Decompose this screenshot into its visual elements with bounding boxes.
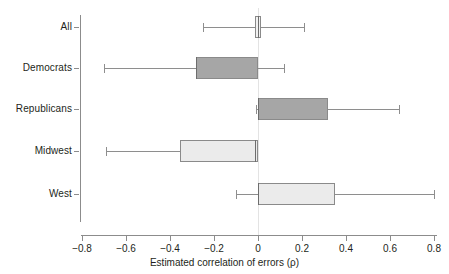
x-axis-title: Estimated correlation of errors (ρ) [0, 257, 449, 269]
x-axis-tick-label: −0.2 [204, 243, 224, 254]
x-axis-tick [126, 236, 127, 241]
box-republicans [258, 98, 328, 120]
median-line [255, 140, 256, 162]
whisker-cap [236, 190, 237, 199]
box-midwest [180, 140, 258, 162]
y-axis-tick [74, 151, 79, 152]
boxplot-figure: −0.8−0.6−0.4−0.200.20.40.60.8Estimated c… [0, 0, 449, 274]
median-line [258, 16, 259, 38]
whisker-cap [104, 64, 105, 73]
x-axis-line [81, 235, 437, 236]
y-axis-tick-label: Democrats [23, 63, 72, 73]
x-axis-tick [346, 236, 347, 241]
x-axis-tick [82, 236, 83, 241]
x-axis-tick-label: 0.6 [383, 243, 397, 254]
x-axis-tick-label: 0.4 [339, 243, 353, 254]
y-axis-tick-label: West [49, 189, 72, 199]
y-axis-tick [74, 68, 79, 69]
box-west [258, 183, 335, 205]
median-line [258, 98, 259, 120]
whisker-cap [284, 64, 285, 73]
y-axis-tick [74, 27, 79, 28]
whisker-cap [106, 147, 107, 156]
whisker-cap [304, 23, 305, 32]
median-line [196, 57, 197, 79]
x-axis-tick-label: 0.8 [427, 243, 441, 254]
y-axis-tick-label: Midwest [35, 146, 72, 156]
x-axis-tick [302, 236, 303, 241]
whisker-cap [203, 23, 204, 32]
x-axis-tick-label: 0 [255, 243, 261, 254]
whisker-line [203, 27, 304, 28]
y-axis-tick-label: Republicans [16, 104, 72, 114]
x-axis-tick-label: −0.8 [72, 243, 92, 254]
x-axis-tick-label: 0.2 [295, 243, 309, 254]
y-axis-tick [74, 109, 79, 110]
whisker-cap [434, 190, 435, 199]
x-axis-tick [214, 236, 215, 241]
x-axis-tick [434, 236, 435, 241]
x-axis-tick-label: −0.4 [160, 243, 180, 254]
x-axis-tick-label: −0.6 [116, 243, 136, 254]
box-democrats [196, 57, 258, 79]
y-axis-tick-label: All [61, 22, 72, 32]
y-axis-tick [74, 194, 79, 195]
x-axis-tick [170, 236, 171, 241]
x-axis-tick [258, 236, 259, 241]
whisker-cap [399, 105, 400, 114]
median-line [258, 183, 259, 205]
x-axis-tick [390, 236, 391, 241]
whisker-cap [256, 105, 257, 114]
y-axis-line [80, 15, 81, 222]
